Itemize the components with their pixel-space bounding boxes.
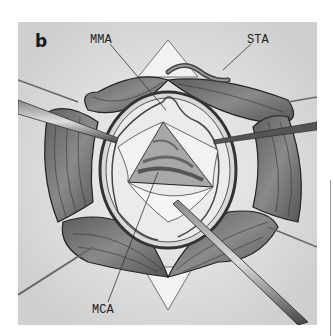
label-mma: MMA: [90, 33, 112, 47]
label-mca: MCA: [92, 303, 114, 317]
surgical-illustration: [18, 22, 317, 325]
edge-divider: [330, 180, 331, 336]
panel-label: b: [35, 31, 47, 51]
illustration-panel: b MMA STA MCA: [18, 22, 317, 325]
label-sta: STA: [247, 33, 269, 47]
